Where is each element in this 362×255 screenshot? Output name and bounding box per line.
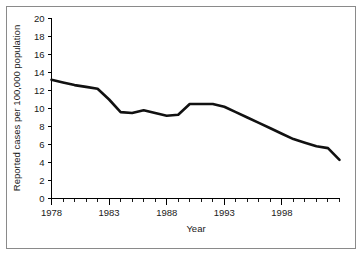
y-tick-label: 8 bbox=[39, 121, 44, 132]
y-axis-ticks bbox=[48, 19, 52, 199]
x-tick-label: 1988 bbox=[156, 207, 177, 218]
y-tick-label: 20 bbox=[34, 13, 45, 24]
x-tick-label: 1998 bbox=[271, 207, 292, 218]
y-axis-tick-labels: 02468101214161820 bbox=[34, 13, 45, 204]
chart-figure: 02468101214161820 19781983198819931998 Y… bbox=[0, 0, 362, 255]
x-tick-label: 1978 bbox=[41, 207, 62, 218]
y-tick-label: 6 bbox=[39, 139, 44, 150]
y-tick-label: 10 bbox=[34, 103, 45, 114]
data-series-line bbox=[52, 80, 340, 160]
x-axis-title: Year bbox=[186, 223, 205, 234]
y-tick-label: 4 bbox=[39, 157, 44, 168]
y-tick-label: 2 bbox=[39, 175, 44, 186]
y-tick-label: 18 bbox=[34, 31, 45, 42]
x-axis-tick-labels: 19781983198819931998 bbox=[41, 207, 293, 218]
x-tick-label: 1993 bbox=[214, 207, 235, 218]
y-tick-label: 0 bbox=[39, 193, 44, 204]
x-tick-label: 1983 bbox=[99, 207, 120, 218]
y-tick-label: 16 bbox=[34, 49, 45, 60]
y-tick-label: 12 bbox=[34, 85, 45, 96]
y-axis-title: Reported cases per 100,000 population bbox=[11, 25, 22, 191]
line-chart: 02468101214161820 19781983198819931998 Y… bbox=[0, 0, 362, 255]
y-tick-label: 14 bbox=[34, 67, 45, 78]
